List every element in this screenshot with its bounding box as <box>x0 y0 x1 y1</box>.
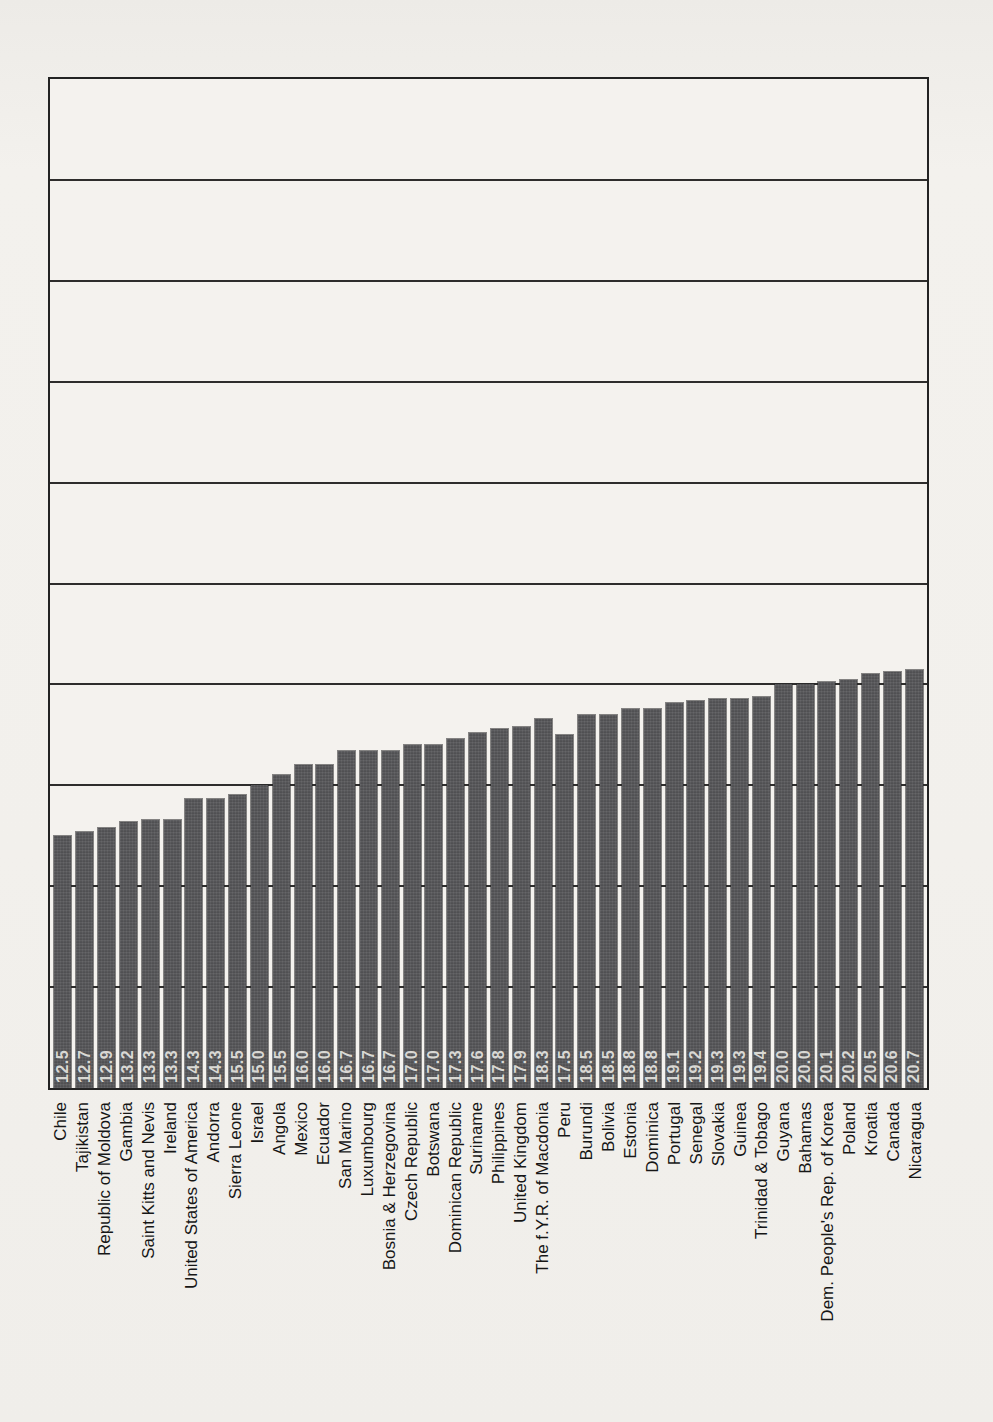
bar-slot: 18.5 <box>598 79 620 1088</box>
country-label: Poland <box>841 1102 859 1155</box>
country-label: Nicaragua <box>907 1102 925 1180</box>
bar-san-marino: 16.7 <box>338 751 355 1088</box>
label-slot: Chile <box>50 1095 72 1375</box>
bar-ireland: 13.3 <box>164 820 181 1088</box>
bar-value-label: 20.2 <box>841 1050 857 1083</box>
bar-ecuador: 16.0 <box>316 765 333 1088</box>
bar-value-label: 14.3 <box>186 1050 202 1083</box>
bar-portugal: 19.1 <box>666 703 683 1088</box>
bar-slot: 17.0 <box>423 79 445 1088</box>
label-slot: United Kingdom <box>510 1095 532 1375</box>
country-label: Bahamas <box>797 1102 815 1174</box>
label-slot: Dominica <box>642 1095 664 1375</box>
bar-slot: 19.4 <box>751 79 773 1088</box>
country-label: Burundi <box>578 1102 596 1161</box>
country-label: Ecuador <box>315 1102 333 1165</box>
bar-luxumbourg: 16.7 <box>360 751 377 1088</box>
bar-value-label: 16.0 <box>317 1050 333 1083</box>
bar-value-label: 14.3 <box>208 1050 224 1083</box>
country-label: Portugal <box>666 1102 684 1165</box>
country-label: Sierra Leone <box>227 1102 245 1199</box>
bar-value-label: 16.0 <box>295 1050 311 1083</box>
bar-value-label: 13.3 <box>164 1050 180 1083</box>
bar-nicaragua: 20.7 <box>906 670 923 1088</box>
bar-botswana: 17.0 <box>425 745 442 1088</box>
country-label: Gambia <box>118 1102 136 1162</box>
bar-slot: 12.5 <box>52 79 74 1088</box>
country-label: Guyana <box>775 1102 793 1162</box>
label-slot: Guinea <box>730 1095 752 1375</box>
label-slot: Bosnia & Herzegovina <box>379 1095 401 1375</box>
label-slot: Botswana <box>423 1095 445 1375</box>
bar-angola: 15.5 <box>273 775 290 1088</box>
bar-slot: 12.7 <box>74 79 96 1088</box>
bar-slot: 13.2 <box>117 79 139 1088</box>
label-slot: Angola <box>269 1095 291 1375</box>
label-slot: Canada <box>883 1095 905 1375</box>
country-label: Mexico <box>293 1102 311 1156</box>
bar-value-label: 12.9 <box>99 1050 115 1083</box>
label-slot: Slovakia <box>708 1095 730 1375</box>
label-slot: Bolivia <box>598 1095 620 1375</box>
bars-row: 12.512.712.913.213.313.314.314.315.515.0… <box>50 79 927 1088</box>
bar-value-label: 17.0 <box>426 1050 442 1083</box>
bar-value-label: 17.3 <box>448 1050 464 1083</box>
bar-slot: 17.0 <box>401 79 423 1088</box>
bar-slot: 13.3 <box>139 79 161 1088</box>
label-slot: Portugal <box>664 1095 686 1375</box>
bar-poland: 20.2 <box>840 680 857 1088</box>
label-slot: United States of America <box>182 1095 204 1375</box>
bar-slot: 18.3 <box>532 79 554 1088</box>
bar-slot: 19.2 <box>685 79 707 1088</box>
bar-value-label: 19.1 <box>666 1050 682 1083</box>
bar-bolivia: 18.5 <box>600 715 617 1088</box>
label-slot: Saint Kitts and Nevis <box>138 1095 160 1375</box>
country-label: Senegal <box>688 1102 706 1164</box>
bar-value-label: 20.5 <box>863 1050 879 1083</box>
bar-united-states-of-america: 14.3 <box>185 799 202 1088</box>
bar-value-label: 20.0 <box>775 1050 791 1083</box>
x-axis-labels: ChileTajikistanRepublic of MoldovaGambia… <box>48 1095 929 1375</box>
bar-peru: 17.5 <box>556 735 573 1088</box>
scanned-page: 12.512.712.913.213.313.314.314.315.515.0… <box>0 0 993 1422</box>
plot-area: 12.512.712.913.213.313.314.314.315.515.0… <box>48 77 929 1090</box>
bar-slot: 19.3 <box>729 79 751 1088</box>
bar-slot: 16.0 <box>314 79 336 1088</box>
bar-slot: 15.5 <box>227 79 249 1088</box>
country-label: Peru <box>556 1102 574 1138</box>
bar-value-label: 18.5 <box>579 1050 595 1083</box>
bar-value-label: 18.5 <box>601 1050 617 1083</box>
bar-slot: 18.8 <box>620 79 642 1088</box>
bar-value-label: 20.0 <box>797 1050 813 1083</box>
bar-value-label: 17.5 <box>557 1050 573 1083</box>
bar-value-label: 13.3 <box>142 1050 158 1083</box>
bar-tajikistan: 12.7 <box>76 832 93 1088</box>
label-slot: Gambia <box>116 1095 138 1375</box>
label-slot: Mexico <box>291 1095 313 1375</box>
bar-slot: 20.2 <box>838 79 860 1088</box>
bar-kroatia: 20.5 <box>862 674 879 1088</box>
country-label: Republic of Moldova <box>96 1102 114 1256</box>
country-label: Bolivia <box>600 1102 618 1152</box>
bar-slot: 13.3 <box>161 79 183 1088</box>
bar-saint-kitts-and-nevis: 13.3 <box>142 820 159 1088</box>
bar-slot: 16.7 <box>358 79 380 1088</box>
bar-estonia: 18.8 <box>622 709 639 1088</box>
country-label: Saint Kitts and Nevis <box>140 1102 158 1259</box>
bar-value-label: 19.3 <box>732 1050 748 1083</box>
country-label: Philippines <box>490 1102 508 1184</box>
bar-value-label: 16.7 <box>339 1050 355 1083</box>
bar-slot: 20.0 <box>794 79 816 1088</box>
bar-the-f-y-r-of-macdonia: 18.3 <box>535 719 552 1088</box>
label-slot: Czech Republic <box>401 1095 423 1375</box>
country-label: Andorra <box>205 1102 223 1162</box>
country-label: Slovakia <box>710 1102 728 1166</box>
bar-bahamas: 20.0 <box>797 684 814 1088</box>
label-slot: Senegal <box>686 1095 708 1375</box>
country-label: United Kingdom <box>512 1102 530 1223</box>
bar-value-label: 15.5 <box>273 1050 289 1083</box>
bar-guinea: 19.3 <box>731 699 748 1088</box>
bar-value-label: 12.7 <box>77 1050 93 1083</box>
label-slot: Ireland <box>160 1095 182 1375</box>
label-slot: Republic of Moldova <box>94 1095 116 1375</box>
